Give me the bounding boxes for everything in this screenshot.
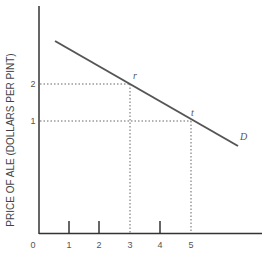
x-tick-label: 5 [188, 240, 193, 250]
x-ticks [69, 221, 160, 233]
y-tick-label: 1 [30, 116, 35, 126]
point-label-r: r [133, 70, 137, 81]
curve-label-d: D [239, 131, 248, 142]
y-tick-label: 2 [30, 79, 35, 89]
x-tick-label: 2 [96, 240, 101, 250]
demand-chart: 0 1 2 3 4 5 1 2 PRICE OF ALE (DOLLARS PE… [0, 0, 266, 266]
x-tick-label: 0 [30, 240, 35, 250]
y-axis-label: PRICE OF ALE (DOLLARS PER PINT) [5, 53, 16, 226]
demand-curve [55, 41, 238, 146]
x-tick-label: 1 [66, 240, 71, 250]
x-tick-label: 4 [157, 240, 162, 250]
point-label-t: t [191, 107, 194, 118]
x-tick-label: 3 [127, 240, 132, 250]
